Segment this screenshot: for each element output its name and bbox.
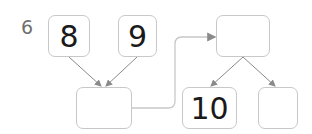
box-top-middle: 9 [118, 15, 157, 57]
arrow-top-right-to-blank [243, 57, 275, 86]
arrow-8-to-sum [69, 57, 101, 86]
number-bond-diagram: 6 8 9 10 [0, 0, 312, 134]
box-top-left: 8 [48, 15, 90, 57]
box-sum[interactable] [76, 87, 132, 129]
box-top-right[interactable] [216, 15, 270, 57]
arrow-9-to-sum [106, 57, 137, 86]
arrow-top-right-to-10 [211, 57, 243, 86]
box-bottom-right[interactable] [258, 87, 298, 129]
box-bottom-middle: 10 [182, 87, 237, 129]
